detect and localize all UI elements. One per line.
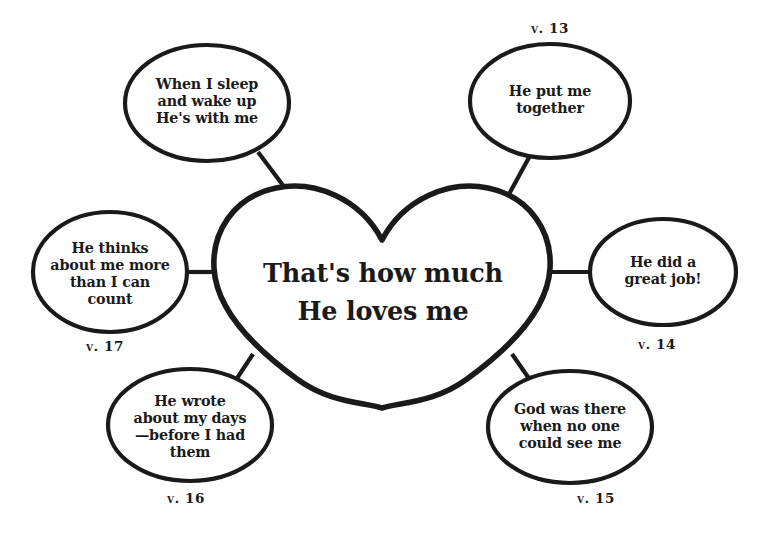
bubble-text-line-4: count (88, 291, 133, 307)
verse-label-13: v. 13 (530, 20, 569, 36)
verse-label-15: v. 15 (576, 490, 615, 506)
bubble-text-line-2: and wake up (158, 93, 257, 109)
bubble-text-line-1: He did a (630, 254, 696, 270)
bubble-he-did-a-great-job[interactable]: He did a great job! v. 14 (590, 219, 736, 352)
bubble-text-line-1: He wrote (154, 393, 226, 409)
verse-label-17: v. 17 (85, 338, 124, 354)
connector-top-right (508, 152, 532, 196)
bubble-text-line-4: them (170, 444, 211, 460)
bubble-he-put-me-together[interactable]: v. 13 He put me together (470, 20, 630, 158)
mind-map-diagram: That's how much He loves me When I sleep… (0, 0, 760, 535)
heart-text-line-1: That's how much (263, 258, 503, 288)
bubble-text-line-2: about my days (134, 410, 247, 426)
worksheet-canvas: That's how much He loves me When I sleep… (0, 0, 760, 535)
bubble-text-line-3: than I can (70, 274, 151, 290)
bubble-he-thinks-about-me[interactable]: He thinks about me more than I can count… (33, 212, 187, 354)
bubble-he-wrote-about-my-days[interactable]: He wrote about my days —before I had the… (108, 369, 272, 506)
bubble-text-line-1: When I sleep (155, 76, 259, 92)
center-heart[interactable]: That's how much He loves me (214, 186, 550, 408)
bubble-text-line-3: could see me (519, 435, 622, 451)
bubble-text-line-3: He's with me (156, 110, 258, 126)
bubble-text-line-1: He thinks (71, 240, 148, 256)
bubble-text-line-2: about me more (50, 257, 169, 273)
bubble-text-line-2: together (516, 100, 584, 116)
bubble-text-line-1: God was there (514, 401, 626, 417)
bubble-text-line-2: when no one (519, 418, 620, 434)
heart-text-line-2: He loves me (297, 296, 468, 326)
bubble-text-line-1: He put me (509, 83, 591, 99)
verse-label-16: v. 16 (166, 490, 205, 506)
bubble-god-was-there[interactable]: God was there when no one could see me v… (488, 371, 652, 506)
verse-label-14: v. 14 (637, 336, 676, 352)
bubble-text-line-2: great job! (625, 271, 702, 287)
bubble-text-line-3: —before I had (135, 427, 245, 443)
bubble-when-i-sleep[interactable]: When I sleep and wake up He's with me (125, 45, 289, 161)
